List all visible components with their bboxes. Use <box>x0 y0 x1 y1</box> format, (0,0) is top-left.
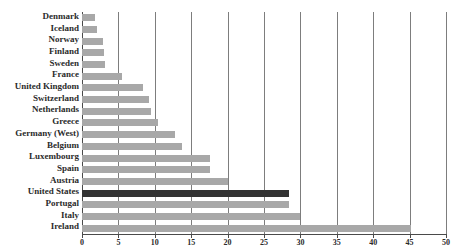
x-tick-label: 20 <box>224 238 232 247</box>
x-tick-label: 10 <box>151 238 159 247</box>
category-label: Sweden <box>49 58 79 70</box>
category-label: Netherlands <box>32 104 79 116</box>
bar <box>82 38 103 45</box>
bar-rows: DenmarkIcelandNorwayFinlandSwedenFranceU… <box>82 12 446 234</box>
category-label: Belgium <box>47 140 79 152</box>
bar-row: Sweden <box>82 59 446 71</box>
bar <box>82 131 175 138</box>
x-tick-label: 0 <box>80 238 84 247</box>
chart-title <box>0 0 459 2</box>
bar-row: Iceland <box>82 24 446 36</box>
bar <box>82 108 151 115</box>
category-label: Switzerland <box>33 93 79 105</box>
plot-area: DenmarkIcelandNorwayFinlandSwedenFranceU… <box>82 12 446 234</box>
bar-row: Austria <box>82 176 446 188</box>
category-label: Germany (West) <box>15 128 79 140</box>
bar-row: United Kingdom <box>82 82 446 94</box>
x-tick-label: 35 <box>333 238 341 247</box>
category-label: Iceland <box>50 23 79 35</box>
bar-row: France <box>82 70 446 82</box>
x-tick-label: 40 <box>369 238 377 247</box>
category-label: Norway <box>49 34 80 46</box>
bar-row: Belgium <box>82 141 446 153</box>
bar <box>82 49 104 56</box>
bar <box>82 225 411 232</box>
bar <box>82 166 210 173</box>
category-label: Portugal <box>46 198 80 210</box>
category-label: Finland <box>49 46 79 58</box>
bar <box>82 84 143 91</box>
bar-row: Portugal <box>82 199 446 211</box>
category-label: Greece <box>52 116 79 128</box>
bar-row: United States <box>82 187 446 199</box>
bar <box>82 155 210 162</box>
bar-row: Finland <box>82 47 446 59</box>
bar <box>82 26 97 33</box>
bar-row: Switzerland <box>82 94 446 106</box>
bar <box>82 201 289 208</box>
bar-row: Germany (West) <box>82 129 446 141</box>
category-label: Ireland <box>51 221 79 233</box>
bar-row: Luxembourg <box>82 152 446 164</box>
bar <box>82 119 158 126</box>
bar-row: Spain <box>82 164 446 176</box>
category-label: France <box>52 69 79 81</box>
x-tick-label: 30 <box>296 238 304 247</box>
bar <box>82 143 182 150</box>
bar-chart: DenmarkIcelandNorwayFinlandSwedenFranceU… <box>0 0 459 252</box>
bar <box>82 190 289 197</box>
x-tick-label: 5 <box>116 238 120 247</box>
bar-row: Italy <box>82 211 446 223</box>
bar-row: Ireland <box>82 222 446 234</box>
x-tick-label: 45 <box>406 238 414 247</box>
x-tick-label: 25 <box>260 238 268 247</box>
bar-row: Netherlands <box>82 105 446 117</box>
bar <box>82 14 95 21</box>
gridline-50 <box>446 12 447 234</box>
category-label: Austria <box>50 175 79 187</box>
x-tick-label: 15 <box>187 238 195 247</box>
x-tick-label: 50 <box>442 238 450 247</box>
bar-row: Denmark <box>82 12 446 24</box>
bar <box>82 61 105 68</box>
bar <box>82 96 149 103</box>
bar-row: Greece <box>82 117 446 129</box>
category-label: United Kingdom <box>15 81 79 93</box>
bar <box>82 73 122 80</box>
category-label: Denmark <box>43 11 80 23</box>
bar <box>82 178 228 185</box>
category-label: Italy <box>61 210 79 222</box>
category-label: Spain <box>57 163 79 175</box>
category-label: Luxembourg <box>29 151 79 163</box>
category-label: United States <box>28 186 79 198</box>
bar-row: Norway <box>82 35 446 47</box>
bar <box>82 213 300 220</box>
